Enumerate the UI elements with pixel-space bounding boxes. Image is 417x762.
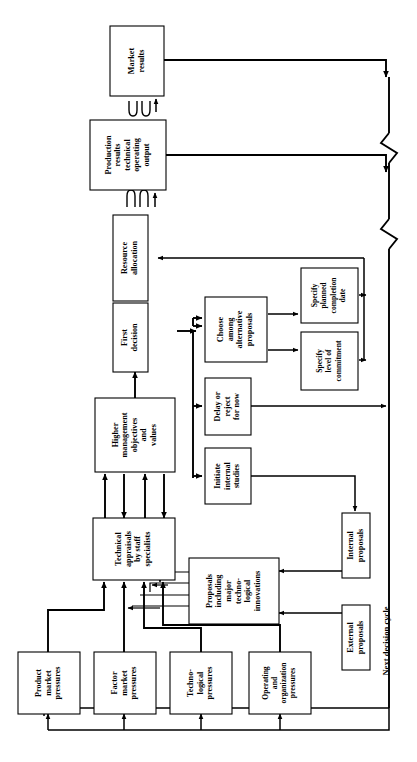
node-first-decision-line-0: First <box>120 329 129 346</box>
node-specify-planned-line-0: Specify <box>310 283 319 307</box>
edge-market-results-to-spine <box>164 60 386 77</box>
node-higher-mgmt-line-2: objectives <box>130 418 139 453</box>
node-production-results[interactable]: Production results technical operating o… <box>90 120 166 190</box>
caption-next-decision-cycle: Next decision cycle <box>381 606 391 675</box>
node-product-market-pressures[interactable]: Product market pressures <box>18 652 80 714</box>
node-higher-mgmt-line-4: values <box>149 424 158 446</box>
node-proposals-line-1: including <box>214 574 223 608</box>
edge-initiate-to-internal-proposals <box>251 476 355 511</box>
next-decision-cycle-label: Next decision cycle <box>381 606 391 675</box>
node-production-results-line-1: results <box>113 143 122 166</box>
node-product-market-line-0: Product <box>34 669 43 697</box>
node-choose-among-alternative-proposals[interactable]: Choose among alternative proposals <box>205 297 267 362</box>
node-factor-market-line-2: pressures <box>129 667 138 700</box>
break-mark-upper <box>381 133 397 163</box>
flowchart-canvas: Market results Production results techni… <box>0 0 417 762</box>
node-product-market-line-1: market <box>44 670 53 696</box>
node-choose-line-2: alternative <box>235 310 244 348</box>
node-specify-planned-line-1: planned <box>319 282 328 309</box>
node-market-results-line-0: Market <box>127 48 136 75</box>
node-technological-pressures[interactable]: Techno- logical pressures <box>170 652 232 714</box>
node-higher-mgmt-line-0: Higher <box>111 422 120 447</box>
node-delay-line-2: for now <box>232 393 241 420</box>
node-resource-allocation[interactable]: Resource allocation <box>113 215 148 301</box>
node-specify-level-line-0: Specify <box>315 349 324 373</box>
node-internal-proposals[interactable]: Internal proposals <box>342 513 370 578</box>
node-operating-and-organization-pressures[interactable]: Operating and organization pressures <box>249 652 311 714</box>
node-proposals-line-2: major <box>224 580 233 602</box>
node-technological-line-2: pressures <box>205 667 214 700</box>
node-production-results-line-4: output <box>142 143 151 166</box>
node-technical-appraisals-line-0: Technical <box>114 532 123 566</box>
node-delay-line-0: Delay or <box>213 391 222 421</box>
node-initiate-internal-studies[interactable]: Initiate internal studies <box>205 448 251 504</box>
edge-production-results-to-spine <box>166 155 386 172</box>
node-choose-line-0: Choose <box>216 316 225 342</box>
node-resource-allocation-line-0: Resource <box>120 242 129 275</box>
node-specify-level-line-2: commitment <box>334 340 343 381</box>
node-delay-or-reject-for-now[interactable]: Delay or reject for now <box>205 378 251 435</box>
node-initiate-line-1: internal <box>223 461 232 489</box>
node-specify-level-line-1: level of <box>324 349 333 372</box>
node-operating-org-line-3: pressures <box>288 668 297 699</box>
node-choose-line-3: proposals <box>245 313 254 347</box>
squiggle-production-to-market <box>129 101 150 116</box>
node-external-proposals-line-1: proposals <box>356 621 365 655</box>
node-internal-proposals-line-1: proposals <box>356 529 365 563</box>
node-choose-line-1: among <box>226 317 235 342</box>
node-operating-org-line-1: and <box>270 676 279 689</box>
node-factor-market-pressures[interactable]: Factor market pressures <box>94 652 156 714</box>
node-first-decision[interactable]: First decision <box>113 303 148 372</box>
node-production-results-line-3: operating <box>132 137 141 172</box>
node-operating-org-line-0: Operating <box>261 666 270 700</box>
node-delay-line-1: reject <box>223 396 232 416</box>
squiggle-resource-to-production <box>127 190 148 207</box>
node-operating-org-line-2: organization <box>279 662 288 704</box>
node-external-proposals[interactable]: External proposals <box>342 605 370 670</box>
node-proposals-including-major-technological-innovations[interactable]: Proposals including major techno- logica… <box>189 558 279 624</box>
node-specify-planned-line-2: completion <box>329 277 338 314</box>
node-specify-planned-completion-date[interactable]: Specify planned completion date <box>301 268 358 323</box>
node-proposals-line-5: innovations <box>253 571 262 612</box>
node-market-results-line-1: results <box>137 49 146 72</box>
node-production-results-line-2: technical <box>123 139 132 171</box>
flowchart-diagram: Market results Production results techni… <box>0 0 417 762</box>
node-market-results[interactable]: Market results <box>110 26 164 96</box>
node-technical-appraisals-by-staff-specialists[interactable]: Technical appraisals by staff specialist… <box>93 518 175 580</box>
node-specify-level-of-commitment[interactable]: Specify level of commitment <box>301 332 358 390</box>
break-mark-lower <box>381 219 397 249</box>
node-technical-appraisals-line-2: by staff <box>133 536 142 562</box>
node-external-proposals-line-0: External <box>346 622 355 653</box>
node-proposals-line-4: logical <box>243 579 252 602</box>
node-factor-market-line-0: Factor <box>110 671 119 695</box>
node-technical-appraisals-line-3: specialists <box>143 531 152 566</box>
node-first-decision-line-1: decision <box>130 323 139 352</box>
node-resource-allocation-line-1: allocation <box>130 241 139 276</box>
node-proposals-line-3: techno- <box>234 578 243 604</box>
node-factor-market-line-1: market <box>120 670 129 696</box>
node-higher-mgmt-line-1: management <box>120 412 129 457</box>
edge-proposals-to-appraisals-2 <box>150 583 189 592</box>
node-technological-line-1: logical <box>196 671 205 694</box>
node-production-results-line-0: Production <box>104 135 113 174</box>
node-initiate-line-0: Initiate <box>213 463 222 489</box>
node-higher-mgmt-line-3: and <box>139 428 148 442</box>
node-specify-planned-line-3: date <box>338 288 347 303</box>
node-product-market-line-2: pressures <box>53 667 62 700</box>
node-higher-management-objectives-and-values[interactable]: Higher management objectives and values <box>95 398 175 472</box>
node-initiate-line-2: studies <box>232 464 241 488</box>
node-technical-appraisals-line-1: appraisals <box>124 531 133 567</box>
node-technological-line-0: Techno- <box>186 669 195 697</box>
edge-product-market-to-appraisals <box>48 582 104 652</box>
node-internal-proposals-line-0: Internal <box>346 530 355 559</box>
node-proposals-line-0: Proposals <box>205 574 214 608</box>
